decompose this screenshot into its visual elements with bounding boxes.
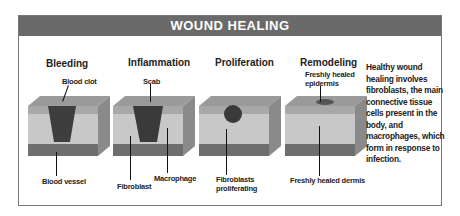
stage-title-remodeling: Remodeling [300, 57, 357, 68]
label-blood-vessel: Blood vessel [42, 177, 86, 186]
leader-line [320, 86, 321, 102]
label-macrophage: Macrophage [154, 174, 196, 183]
skin-inflammation-illustration [113, 96, 195, 158]
diagram-title: WOUND HEALING [19, 16, 441, 36]
label-blood-clot: Blood clot [62, 77, 97, 86]
leader-line [130, 136, 131, 180]
label-freshly-healed-epidermis-2: epidermis [305, 79, 339, 88]
label-freshly-healed-dermis: Freshly healed dermis [290, 176, 365, 185]
label-scab: Scab [143, 77, 160, 86]
leader-line [56, 152, 57, 176]
skin-remodeling-illustration [285, 96, 367, 158]
leader-line [150, 84, 151, 102]
skin-bleeding-illustration [28, 96, 110, 158]
skin-proliferation-illustration [199, 96, 281, 158]
label-freshly-healed-epidermis-1: Freshly healed [305, 70, 355, 79]
leader-line [319, 126, 320, 176]
description-text: Healthy wound healing involves fibroblas… [366, 62, 446, 166]
leader-line [167, 128, 168, 173]
stage-title-inflammation: Inflammation [128, 57, 190, 68]
label-fibroblast: Fibroblast [117, 182, 151, 191]
label-fibroblasts-proliferating-2: proliferating [216, 184, 257, 193]
label-fibroblasts-proliferating-1: Fibroblasts [216, 175, 254, 184]
leader-line [226, 129, 227, 175]
stage-title-proliferation: Proliferation [215, 57, 274, 68]
stage-title-bleeding: Bleeding [46, 58, 88, 69]
